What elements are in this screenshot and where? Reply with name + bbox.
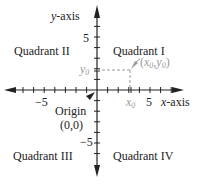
y-axis — [94, 5, 100, 177]
quadrant-3-label: Quadrant III — [13, 150, 73, 162]
x-axis-label-suffix: -axis — [166, 95, 189, 109]
x-tick-label-neg5: −5 — [35, 96, 48, 108]
x-axis — [4, 87, 184, 93]
x-axis-right-arrow-icon — [172, 87, 184, 93]
quadrant-4-label: Quadrant IV — [113, 150, 173, 162]
origin-pointer-arrow-icon — [86, 92, 95, 100]
x-axis-left-arrow-icon — [4, 87, 16, 93]
y-axis-label-suffix: -axis — [56, 9, 79, 23]
quadrant-2-label: Quadrant II — [14, 45, 70, 57]
point-pointer-arrow-icon — [131, 61, 138, 69]
y-axis-up-arrow-icon — [94, 5, 100, 18]
y-tick-label-neg5: −5 — [80, 136, 93, 148]
origin-coords: (0,0) — [60, 119, 83, 131]
coordinate-plane-diagram: y-axis x-axis 5 −5 −5 5 y0 x0 (x0,y0) Qu… — [0, 0, 200, 185]
x-tick-label-5: 5 — [146, 96, 152, 108]
point-guides — [97, 70, 130, 90]
y0-subscript: 0 — [85, 68, 89, 77]
point-label: (x0,y0) — [140, 56, 170, 70]
x0-axis-label: x0 — [126, 96, 135, 110]
x-axis-label: x-axis — [161, 96, 190, 108]
y0-axis-label: y0 — [80, 63, 89, 77]
x0-subscript: 0 — [131, 101, 135, 110]
origin-label: Origin — [55, 105, 86, 117]
quadrant-1-label: Quadrant I — [113, 45, 165, 57]
point-close-paren: ) — [166, 55, 170, 69]
y-axis-down-arrow-icon — [94, 165, 100, 177]
y-tick-label-5: 5 — [83, 32, 89, 44]
y-axis-label: y-axis — [51, 10, 80, 22]
